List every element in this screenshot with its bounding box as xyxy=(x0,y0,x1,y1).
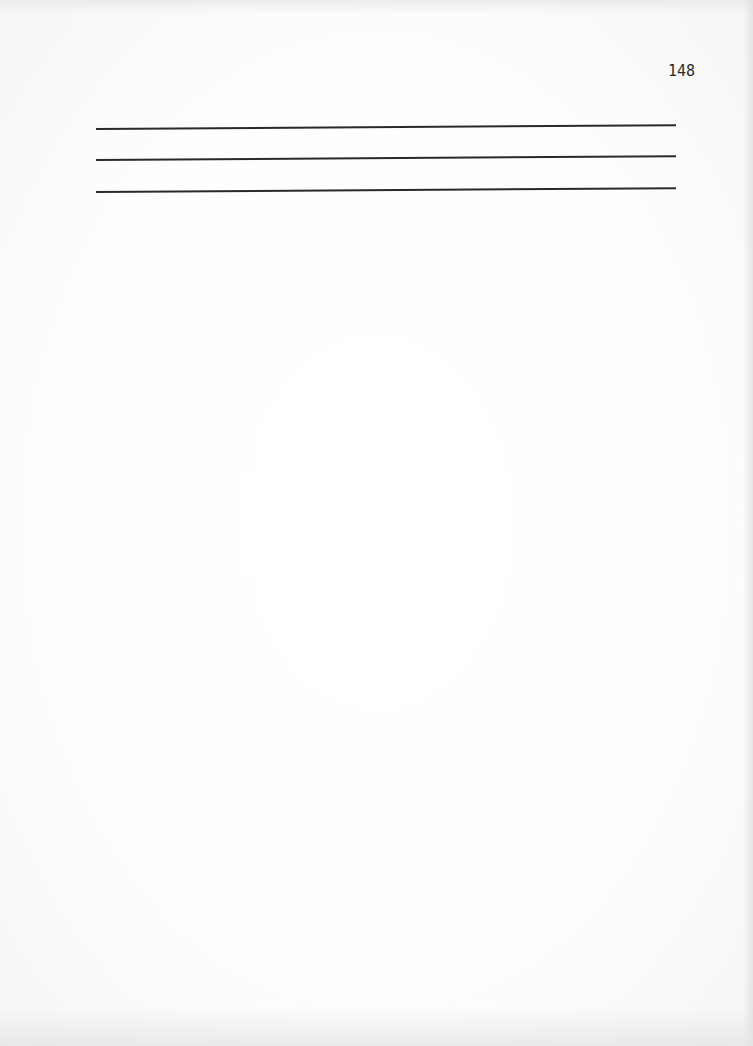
page-right-shadow xyxy=(743,0,753,1046)
document-page: 148 xyxy=(0,0,753,1046)
page-number: 148 xyxy=(668,63,695,79)
blank-line-1 xyxy=(96,124,676,129)
blank-line-2 xyxy=(96,155,676,160)
blank-line-3 xyxy=(96,187,676,192)
page-top-shadow xyxy=(0,0,753,14)
page-bottom-shadow xyxy=(0,1006,753,1046)
